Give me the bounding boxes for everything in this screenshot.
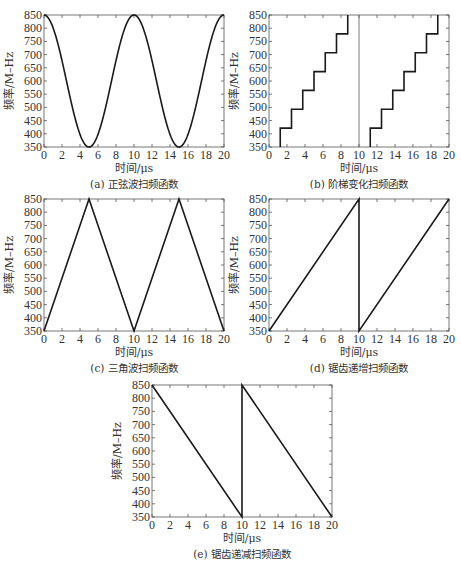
y-tick-label: 350 — [24, 324, 42, 338]
x-tick-label: 2 — [59, 332, 65, 346]
y-tick-label: 800 — [249, 205, 267, 219]
x-tick-label: 18 — [200, 332, 212, 346]
y-tick-label: 650 — [24, 61, 42, 75]
x-tick-label: 6 — [95, 332, 101, 346]
x-tick-label: 12 — [371, 332, 383, 346]
x-tick-label: 20 — [443, 332, 455, 346]
y-tick-label: 750 — [132, 404, 150, 418]
y-axis-label: 频率/M–Hz — [110, 422, 124, 480]
y-tick-label: 850 — [249, 8, 267, 22]
series-line — [370, 15, 438, 147]
y-tick-label: 450 — [249, 114, 267, 128]
x-tick-label: 8 — [338, 148, 344, 162]
chart-panel-c: 0246810121416182035040045050055060065070… — [2, 192, 230, 374]
y-tick-label: 350 — [249, 324, 267, 338]
plot-frame — [44, 15, 224, 147]
y-axis-label: 频率/M–Hz — [227, 236, 241, 294]
x-tick-label: 2 — [284, 148, 290, 162]
y-tick-label: 550 — [132, 457, 150, 471]
x-tick-label: 20 — [443, 148, 455, 162]
x-tick-label: 6 — [95, 148, 101, 162]
y-tick-label: 800 — [249, 21, 267, 35]
chart-panel-a: 0246810121416182035040045050055060065070… — [2, 8, 230, 190]
chart-panel-b: 0246810121416182035040045050055060065070… — [227, 8, 455, 190]
subfigure-caption: (a) 正弦波扫频函数 — [90, 178, 179, 190]
x-tick-label: 18 — [425, 332, 437, 346]
y-tick-label: 750 — [249, 218, 267, 232]
y-tick-label: 500 — [24, 284, 42, 298]
y-tick-label: 550 — [249, 271, 267, 285]
x-tick-label: 8 — [221, 518, 227, 532]
x-tick-label: 12 — [254, 518, 266, 532]
subfigure-caption: (e) 锯齿递减扫频函数 — [193, 548, 292, 560]
y-tick-label: 400 — [249, 311, 267, 325]
y-tick-label: 350 — [132, 510, 150, 524]
y-tick-label: 400 — [132, 497, 150, 511]
x-tick-label: 10 — [128, 148, 140, 162]
x-tick-label: 12 — [371, 148, 383, 162]
x-tick-label: 20 — [218, 332, 230, 346]
y-tick-label: 500 — [132, 470, 150, 484]
y-tick-label: 700 — [249, 232, 267, 246]
x-tick-label: 2 — [59, 148, 65, 162]
x-tick-label: 18 — [308, 518, 320, 532]
x-tick-label: 10 — [128, 332, 140, 346]
y-tick-label: 800 — [24, 205, 42, 219]
y-tick-label: 600 — [249, 74, 267, 88]
x-tick-label: 4 — [77, 148, 83, 162]
chart-panel-e: 0246810121416182035040045050055060065070… — [110, 378, 338, 560]
y-tick-label: 650 — [249, 245, 267, 259]
y-tick-label: 850 — [249, 192, 267, 206]
x-tick-label: 16 — [290, 518, 302, 532]
x-tick-label: 18 — [425, 148, 437, 162]
y-tick-label: 700 — [249, 48, 267, 62]
y-axis-label: 频率/M–Hz — [227, 52, 241, 110]
x-tick-label: 4 — [77, 332, 83, 346]
x-tick-label: 6 — [320, 332, 326, 346]
series-line — [269, 199, 449, 331]
subfigure-caption: (c) 三角波扫频函数 — [90, 362, 178, 374]
x-tick-label: 14 — [272, 518, 284, 532]
x-axis-label: 时间/μs — [340, 162, 379, 175]
x-tick-label: 14 — [389, 332, 401, 346]
series-line — [280, 15, 348, 147]
x-tick-label: 10 — [236, 518, 248, 532]
y-tick-label: 600 — [249, 258, 267, 272]
y-tick-label: 550 — [249, 87, 267, 101]
x-tick-label: 18 — [200, 148, 212, 162]
chart-panel-d: 0246810121416182035040045050055060065070… — [227, 192, 455, 374]
x-axis-label: 时间/μs — [340, 346, 379, 359]
y-tick-label: 350 — [249, 140, 267, 154]
series-line — [152, 385, 332, 517]
x-tick-label: 6 — [320, 148, 326, 162]
y-tick-label: 750 — [24, 34, 42, 48]
y-tick-label: 500 — [249, 284, 267, 298]
x-axis-label: 时间/μs — [115, 346, 154, 359]
x-tick-label: 2 — [284, 332, 290, 346]
x-tick-label: 16 — [182, 332, 194, 346]
plot-frame — [44, 199, 224, 331]
sweep-function-figure: 0246810121416182035040045050055060065070… — [0, 0, 461, 565]
y-tick-label: 700 — [24, 48, 42, 62]
y-tick-label: 650 — [249, 61, 267, 75]
x-tick-label: 8 — [113, 148, 119, 162]
series-line — [44, 199, 224, 331]
y-tick-label: 400 — [24, 127, 42, 141]
y-tick-label: 850 — [24, 192, 42, 206]
x-axis-label: 时间/μs — [223, 532, 262, 545]
x-tick-label: 4 — [185, 518, 191, 532]
x-tick-label: 10 — [353, 332, 365, 346]
y-tick-label: 650 — [24, 245, 42, 259]
y-tick-label: 400 — [249, 127, 267, 141]
y-tick-label: 450 — [24, 114, 42, 128]
x-tick-label: 8 — [113, 332, 119, 346]
series-line — [44, 15, 224, 147]
x-tick-label: 14 — [389, 148, 401, 162]
y-tick-label: 500 — [249, 100, 267, 114]
y-tick-label: 450 — [24, 298, 42, 312]
x-tick-label: 12 — [146, 148, 158, 162]
y-tick-label: 600 — [132, 444, 150, 458]
y-tick-label: 400 — [24, 311, 42, 325]
x-tick-label: 2 — [167, 518, 173, 532]
y-tick-label: 600 — [24, 258, 42, 272]
